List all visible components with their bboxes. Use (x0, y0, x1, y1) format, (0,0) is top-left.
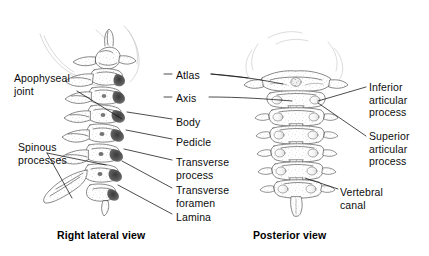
label-pedicle: Pedicle (176, 136, 211, 149)
leader-lamina (118, 185, 172, 214)
lateral-vertebra-t1 (86, 184, 119, 216)
posterior-vertebra-c7 (260, 180, 335, 217)
label-superior-articular-process: Superior articular process (369, 130, 410, 168)
label-vertebral-canal: Vertebral canal (340, 186, 383, 211)
label-body: Body (176, 116, 200, 129)
posterior-atlas (244, 71, 348, 92)
lateral-axis (65, 69, 125, 87)
leader-transverse-process (124, 149, 172, 160)
anatomy-illustration (0, 0, 429, 256)
label-atlas: Atlas (176, 69, 200, 82)
lateral-view-drawing (40, 26, 139, 216)
lateral-vertebra-c6 (59, 144, 123, 164)
label-transverse-process: Transverse process (176, 156, 229, 181)
caption-posterior-view: Posterior view (253, 229, 326, 241)
leader-inferior-articular (318, 87, 366, 101)
posterior-view-drawing (244, 32, 348, 217)
lateral-atlas (73, 29, 136, 69)
label-axis: Axis (176, 92, 196, 105)
label-inferior-articular-process: Inferior articular process (369, 81, 407, 119)
leader-pedicle (126, 130, 172, 139)
anatomy-figure: Apophyseal joint Spinous processes Atlas… (0, 0, 429, 256)
caption-right-lateral-view: Right lateral view (57, 229, 145, 241)
lateral-vertebra-c3 (65, 87, 125, 104)
label-lamina: Lamina (176, 211, 211, 224)
label-spinous-processes: Spinous processes (18, 141, 67, 166)
lateral-vertebra-c5 (62, 124, 124, 142)
lateral-vertebra-c4 (64, 105, 125, 123)
leader-transverse-foramen (122, 161, 172, 188)
label-transverse-foramen: Transverse foramen (176, 184, 229, 209)
leader-body (127, 112, 172, 119)
label-apophyseal-joint: Apophyseal joint (14, 72, 70, 97)
